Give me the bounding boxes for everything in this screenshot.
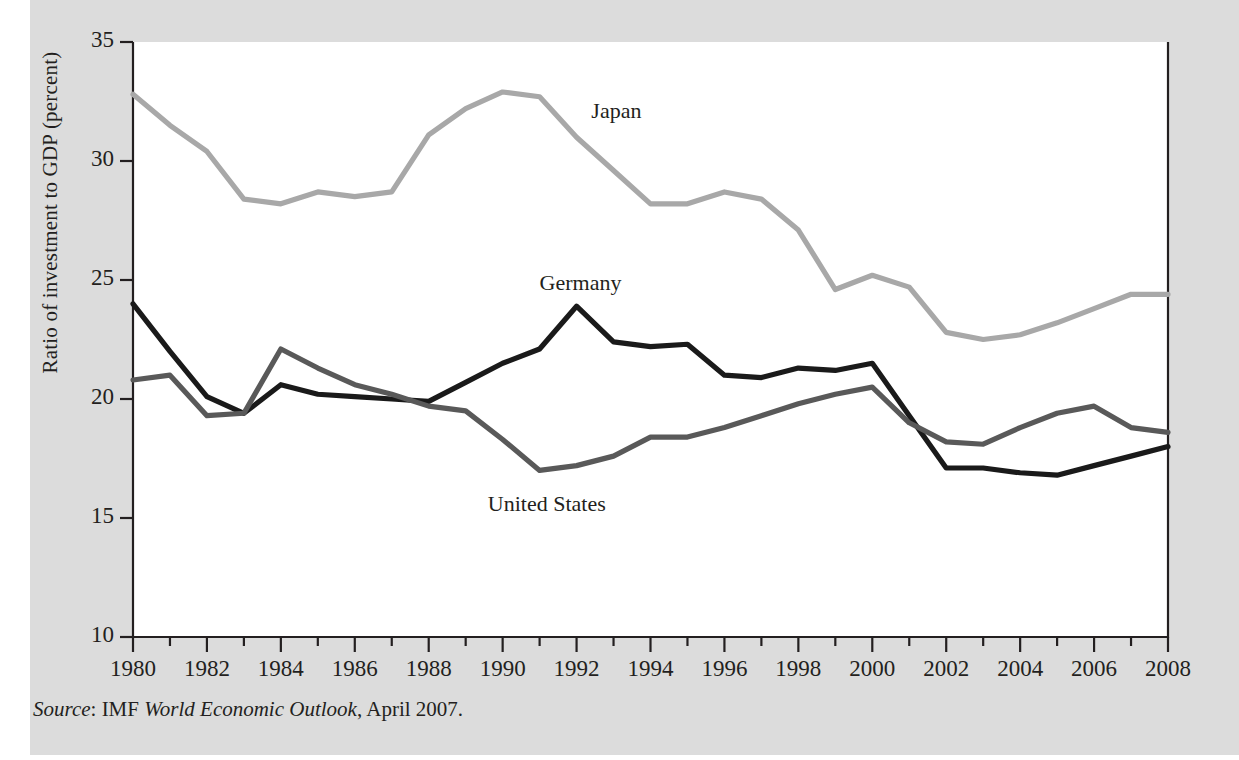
- source-date: , April 2007.: [357, 697, 463, 721]
- y-tick-label: 35: [68, 27, 114, 53]
- source-note: Source: IMF World Economic Outlook, Apri…: [33, 697, 463, 722]
- figure-container: Ratio of investment to GDP (percent) 101…: [0, 0, 1239, 760]
- y-tick-label: 20: [68, 384, 114, 410]
- series-line-united-states: [133, 349, 1168, 470]
- source-publication: World Economic Outlook: [144, 697, 357, 721]
- series-line-japan: [133, 92, 1168, 340]
- y-axis-title: Ratio of investment to GDP (percent): [38, 3, 63, 423]
- series-line-germany: [133, 304, 1168, 475]
- series-label-japan: Japan: [591, 98, 641, 124]
- series-label-germany: Germany: [540, 270, 622, 296]
- source-label: Source: [33, 697, 91, 721]
- y-tick-label: 30: [68, 146, 114, 172]
- axis-spine: [133, 42, 1168, 637]
- series-label-united-states: United States: [488, 491, 606, 517]
- y-tick-label: 15: [68, 503, 114, 529]
- source-mid: : IMF: [91, 697, 145, 721]
- y-tick-label: 25: [68, 265, 114, 291]
- x-tick-label: 2008: [1123, 656, 1213, 682]
- y-tick-label: 10: [68, 622, 114, 648]
